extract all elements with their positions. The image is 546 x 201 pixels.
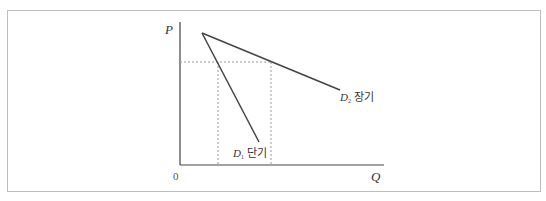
d2-label: D2장기 xyxy=(339,91,374,104)
d1-label: D1단기 xyxy=(232,147,267,160)
demand-diagram: P Q 0 D1단기 D2장기 xyxy=(0,0,546,201)
y-axis-label: P xyxy=(164,22,173,37)
x-axis-label: Q xyxy=(371,169,381,184)
d1-short-run-curve xyxy=(202,33,259,142)
origin-label: 0 xyxy=(173,170,179,182)
d2-long-run-curve xyxy=(202,33,340,90)
